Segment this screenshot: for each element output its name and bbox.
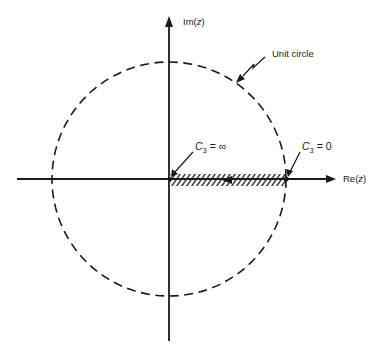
label-text: ) [201, 16, 204, 27]
label-subscript: 3 [310, 146, 314, 155]
label-subscript: 3 [203, 146, 207, 155]
c3-zero-label: C3 = 0 [302, 141, 332, 152]
real-axis-arrow-icon [326, 175, 336, 183]
leader-c3-zero [286, 152, 300, 177]
label-text: = [207, 140, 219, 152]
unit-circle-label: Unit circle [272, 49, 314, 59]
complex-plane-diagram [0, 0, 380, 356]
imaginary-axis-arrow-icon [165, 16, 173, 27]
label-text: Re( [343, 173, 358, 184]
leader-c3-infinity [171, 152, 193, 177]
real-axis-label: Re(z) [343, 174, 366, 184]
leader-unit-circle [236, 57, 265, 83]
c3-infinity-label: C3 = ∞ [195, 141, 226, 152]
label-symbol: C [195, 140, 203, 152]
label-text: Im( [183, 16, 197, 27]
origin-marker [168, 177, 172, 181]
label-value: ∞ [219, 140, 227, 152]
label-text: = [314, 140, 326, 152]
label-value: 0 [326, 140, 332, 152]
label-symbol: C [302, 140, 310, 152]
unit-point-marker [284, 177, 289, 182]
label-text: Unit circle [272, 48, 314, 59]
leader-arrow-icon [286, 169, 293, 177]
imaginary-axis-label: Im(z) [183, 17, 205, 27]
label-text: ) [363, 173, 366, 184]
